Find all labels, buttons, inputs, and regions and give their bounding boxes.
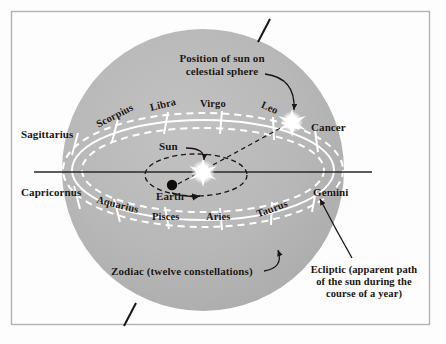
ecliptic-caption-line3: course of a year) bbox=[300, 288, 428, 300]
zodiac-label-virgo: Virgo bbox=[200, 98, 226, 110]
zodiac-label-capricornus: Capricornus bbox=[21, 186, 81, 199]
zodiac-label-cancer: Cancer bbox=[311, 121, 346, 134]
zodiac-label-sagittarius: Sagittarius bbox=[21, 128, 73, 141]
zodiac-label-gemini: Gemini bbox=[313, 186, 348, 199]
ecliptic-caption: Ecliptic (apparent path of the sun durin… bbox=[300, 264, 428, 300]
celestial-axis-tick-bottom bbox=[124, 303, 136, 326]
ecliptic-caption-line2: of the sun during the bbox=[300, 276, 428, 288]
zodiac-label-pisces: Pisces bbox=[152, 211, 179, 223]
sun-label: Sun bbox=[159, 140, 178, 153]
zodiac-label-aries: Aries bbox=[206, 211, 230, 223]
earth-label: Earth bbox=[156, 190, 184, 203]
zodiac-caption: Zodiac (twelve constellations) bbox=[111, 265, 253, 278]
earth-glyph bbox=[167, 180, 177, 190]
celestial-axis-tick-top bbox=[258, 19, 270, 42]
sun-position-annotation-line2: celestial sphere bbox=[160, 65, 284, 78]
sun-position-annotation: Position of sun on celestial sphere bbox=[160, 52, 284, 77]
celestial-sphere-figure: Position of sun on celestial sphere Scor… bbox=[0, 0, 446, 344]
sun-position-annotation-line1: Position of sun on bbox=[160, 52, 284, 65]
ecliptic-caption-line1: Ecliptic (apparent path bbox=[300, 264, 428, 276]
